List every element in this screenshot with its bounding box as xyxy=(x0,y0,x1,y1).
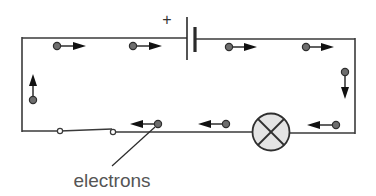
circuit-diagram: + xyxy=(0,0,376,196)
electron-dot xyxy=(225,43,232,50)
arrow-down-icon xyxy=(341,87,349,99)
electrons-callout: electrons xyxy=(73,127,155,191)
electron-arrow-left xyxy=(307,121,340,129)
circuit-wires xyxy=(22,37,355,134)
electron-dot xyxy=(154,120,161,127)
arrow-right-icon xyxy=(321,43,334,51)
electron-arrow-right xyxy=(225,43,257,51)
electron-arrow-right xyxy=(302,43,334,51)
electron-arrow-left xyxy=(130,120,162,128)
switch xyxy=(57,128,115,134)
arrow-right-icon xyxy=(73,42,86,50)
electron-arrow-left xyxy=(198,120,230,128)
electron-dot xyxy=(302,43,309,50)
electron-dot xyxy=(332,121,339,128)
arrow-right-icon xyxy=(244,43,257,51)
switch-contact-left xyxy=(57,128,62,133)
lamp xyxy=(253,114,290,151)
electron-arrow-right xyxy=(53,42,86,50)
arrow-right-icon xyxy=(149,42,162,50)
arrow-left-icon xyxy=(198,120,211,128)
electron-dot xyxy=(53,42,60,49)
electron-dot xyxy=(129,42,136,49)
electrons-label: electrons xyxy=(73,170,150,191)
electron-dot xyxy=(341,68,348,75)
electron-flow xyxy=(29,42,349,129)
electron-dot xyxy=(222,120,229,127)
arrow-up-icon xyxy=(29,74,37,86)
electron-arrow-right xyxy=(129,42,162,50)
arrow-left-icon xyxy=(130,120,143,128)
electron-arrow-up xyxy=(29,74,37,104)
switch-contact-right xyxy=(110,129,115,134)
callout-leader-line xyxy=(112,127,155,166)
switch-lever xyxy=(60,129,112,131)
arrow-left-icon xyxy=(307,121,320,129)
electron-dot xyxy=(29,96,36,103)
electron-arrow-down xyxy=(341,68,349,99)
battery: + xyxy=(162,11,195,60)
battery-plus-sign: + xyxy=(162,11,171,28)
